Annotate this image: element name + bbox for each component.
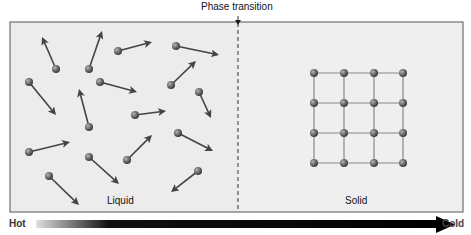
molecule-icon	[340, 159, 348, 167]
molecule-icon	[399, 69, 407, 77]
molecule-icon	[25, 78, 33, 86]
molecule-icon	[340, 129, 348, 137]
molecule-icon	[399, 159, 407, 167]
solid-panel	[238, 22, 463, 212]
molecule-icon	[195, 88, 203, 96]
molecule-icon	[370, 99, 378, 107]
temperature-arrow	[36, 216, 455, 233]
molecule-icon	[399, 99, 407, 107]
molecule-icon	[370, 69, 378, 77]
molecule-icon	[340, 99, 348, 107]
molecule-icon	[172, 42, 180, 50]
molecule-icon	[310, 159, 318, 167]
molecule-icon	[85, 153, 93, 161]
molecule-icon	[310, 69, 318, 77]
molecule-icon	[310, 129, 318, 137]
solid-label: Solid	[345, 195, 367, 206]
molecule-icon	[310, 99, 318, 107]
phase-transition-diagram	[0, 0, 471, 235]
liquid-label: Liquid	[107, 195, 134, 206]
cold-label: Cold	[442, 218, 464, 229]
phase-transition-label: Phase transition	[201, 1, 273, 12]
molecule-icon	[123, 156, 131, 164]
molecule-icon	[370, 129, 378, 137]
molecule-icon	[131, 111, 139, 119]
molecule-icon	[370, 159, 378, 167]
molecule-icon	[52, 65, 60, 73]
molecule-icon	[340, 69, 348, 77]
molecule-icon	[194, 167, 202, 175]
molecule-icon	[399, 129, 407, 137]
hot-label: Hot	[9, 218, 26, 229]
molecule-icon	[96, 78, 104, 86]
molecule-icon	[45, 172, 53, 180]
molecule-icon	[85, 65, 93, 73]
molecule-icon	[25, 148, 33, 156]
molecule-icon	[174, 129, 182, 137]
molecule-icon	[167, 81, 175, 89]
molecule-icon	[114, 47, 122, 55]
molecule-icon	[85, 123, 93, 131]
liquid-panel	[10, 22, 238, 212]
